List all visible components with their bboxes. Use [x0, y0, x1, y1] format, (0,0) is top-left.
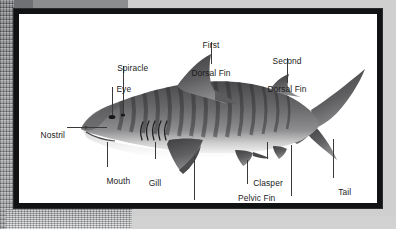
- label-second-dorsal-line2: Dorsal Fin: [253, 85, 321, 94]
- label-first-dorsal-fin: First Dorsal Fin: [177, 22, 245, 97]
- label-second-dorsal-line1: Second: [253, 57, 321, 66]
- label-gill-slits: Gill Slits: [136, 160, 174, 203]
- label-nostril-text: Nostril: [41, 130, 65, 140]
- leader-mouth: [107, 142, 108, 167]
- background-top-strip: [33, 0, 128, 9]
- leader-pectoral-fin: [194, 156, 195, 200]
- label-gill-slits-line1: Gill: [136, 179, 174, 188]
- illustration-frame: Nostril Eye Spiracle Mouth Gill Slits Pe…: [14, 9, 382, 208]
- leader-gill-slits: [155, 142, 156, 159]
- label-anal-fin: Anal Fin: [265, 197, 317, 203]
- illustration-panel: Nostril Eye Spiracle Mouth Gill Slits Pe…: [19, 14, 377, 203]
- label-first-dorsal-line2: Dorsal Fin: [177, 69, 245, 78]
- label-spiracle-text: Spiracle: [117, 63, 148, 73]
- label-mouth: Mouth: [87, 168, 127, 196]
- spiracle-mark: [121, 113, 125, 116]
- label-tail-text: Tail: [338, 187, 351, 197]
- eye-mark: [109, 115, 116, 119]
- label-nostril: Nostril: [19, 122, 65, 150]
- label-second-dorsal-fin: Second Dorsal Fin: [253, 38, 321, 113]
- leader-nostril: [67, 127, 107, 128]
- leader-tail: [333, 139, 334, 178]
- label-first-dorsal-line1: First: [177, 41, 245, 50]
- label-spiracle: Spiracle: [97, 55, 149, 83]
- label-eye-text: Eye: [116, 84, 131, 94]
- background-bottom-texture: [6, 208, 132, 229]
- figure-canvas: Nostril Eye Spiracle Mouth Gill Slits Pe…: [0, 0, 396, 229]
- background-left-texture: [0, 0, 14, 229]
- label-tail: Tail: [319, 179, 347, 203]
- label-mouth-text: Mouth: [106, 176, 130, 186]
- leader-clasper: [267, 142, 268, 159]
- anal-fin: [273, 146, 287, 159]
